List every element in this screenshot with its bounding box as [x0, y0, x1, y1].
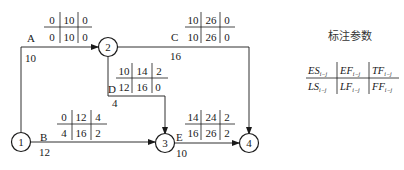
e-ef: 24 [206, 111, 218, 123]
c-es: 10 [188, 14, 200, 26]
a-ff: 0 [82, 31, 88, 43]
activity-c-name: C [171, 31, 178, 43]
c-ef: 26 [206, 14, 218, 26]
a-tf: 0 [82, 14, 88, 26]
d-ef: 14 [137, 65, 149, 77]
node-3: 3 [156, 134, 175, 153]
node-3-label: 3 [162, 137, 168, 149]
params-grid-b: 0 12 4 4 16 2 [57, 110, 107, 140]
activity-b-duration: 12 [39, 146, 50, 158]
a-ef: 10 [64, 14, 76, 26]
legend-title: 标注参数 [328, 29, 372, 43]
node-1: 1 [12, 133, 31, 152]
e-tf: 2 [224, 111, 230, 123]
c-ff: 0 [224, 31, 230, 43]
e-ff: 2 [224, 127, 230, 139]
legend: 标注参数 ESi−j EFi−j TFi−j LSi−j LFi−j FFi−j [306, 29, 399, 94]
b-es: 0 [61, 111, 67, 123]
d-ls: 12 [119, 81, 130, 93]
b-ef: 12 [76, 111, 87, 123]
a-es: 0 [49, 14, 55, 26]
legend-es: ESi−j [307, 65, 327, 77]
node-4: 4 [240, 134, 259, 153]
params-grid-c: 10 26 0 10 26 0 [185, 12, 235, 43]
activity-a-duration: 10 [25, 52, 37, 64]
d-tf: 2 [156, 65, 162, 77]
params-grid-a: 0 10 0 0 10 0 [44, 12, 92, 43]
node-2: 2 [99, 38, 118, 57]
activity-b-name: B [40, 131, 47, 143]
activity-e-name: E [176, 131, 183, 143]
b-ff: 2 [95, 127, 101, 139]
b-lf: 16 [76, 127, 88, 139]
b-tf: 4 [95, 111, 101, 123]
d-ff: 0 [155, 81, 161, 93]
activity-d-name: D [108, 83, 116, 95]
legend-lf: LFi−j [339, 81, 360, 93]
node-2-label: 2 [105, 41, 111, 53]
e-ls: 16 [188, 127, 200, 139]
node-1-label: 1 [18, 136, 24, 148]
d-es: 10 [119, 65, 131, 77]
e-lf: 26 [206, 127, 218, 139]
a-ls: 0 [49, 31, 55, 43]
params-grid-e: 14 24 2 16 26 2 [185, 110, 235, 140]
e-es: 14 [188, 111, 200, 123]
network-diagram: 1 2 3 4 A 10 C 16 D 4 B 12 E 10 0 10 0 0… [0, 0, 404, 170]
node-4-label: 4 [246, 137, 252, 149]
d-lf: 16 [137, 81, 149, 93]
activity-c-duration: 16 [170, 50, 182, 62]
c-tf: 0 [224, 14, 230, 26]
activity-a-name: A [27, 32, 35, 44]
legend-ls: LSi−j [307, 81, 327, 93]
c-ls: 10 [188, 31, 200, 43]
a-lf: 10 [64, 31, 76, 43]
c-lf: 26 [206, 31, 218, 43]
b-ls: 4 [61, 127, 67, 139]
legend-tf: TFi−j [372, 65, 392, 77]
legend-ef: EFi−j [339, 65, 361, 77]
params-grid-d: 10 14 2 12 16 0 [116, 63, 168, 93]
activity-e-duration: 10 [176, 147, 188, 159]
activity-d-duration: 4 [112, 97, 118, 109]
legend-ff: FFi−j [371, 81, 393, 93]
